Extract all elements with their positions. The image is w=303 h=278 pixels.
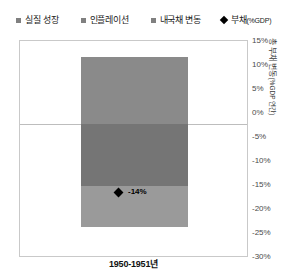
legend-item-label: 부채(%GDP) <box>231 16 271 25</box>
y-axis-title: 총 부채 변동(%GDP 연간) <box>266 38 278 258</box>
legend-item-domestic-debt-change[interactable]: 내국채 변동 <box>151 16 201 25</box>
legend-swatch-icon <box>16 18 21 23</box>
chart-legend: 실질 성장 인플레이션 내국채 변동 부채(%GDP) <box>0 12 303 28</box>
legend-item-label: 내국채 변동 <box>160 16 201 25</box>
debt-marker-value-label: -14% <box>128 188 147 196</box>
bar-segment-real-growth <box>81 57 188 124</box>
legend-swatch-icon <box>151 18 156 23</box>
debt-change-bar-chart: 실질 성장 인플레이션 내국채 변동 부채(%GDP) -14% <box>0 0 303 278</box>
stacked-bar-1950-1951[interactable] <box>81 57 188 227</box>
plot-area: -14% <box>19 40 248 257</box>
debt-marker-group[interactable]: -14% <box>115 188 147 196</box>
legend-swatch-icon <box>81 18 86 23</box>
legend-item-inflation[interactable]: 인플레이션 <box>81 16 129 25</box>
legend-item-real-growth[interactable]: 실질 성장 <box>16 16 59 25</box>
x-axis-category-label: 1950-1951년 <box>19 259 248 269</box>
diamond-marker-icon <box>114 187 124 197</box>
legend-diamond-icon <box>220 16 228 24</box>
legend-item-label: 인플레이션 <box>90 16 129 25</box>
bar-segment-inflation <box>81 124 188 186</box>
legend-item-label: 실질 성장 <box>25 16 59 25</box>
legend-item-debt-pct-gdp[interactable]: 부채(%GDP) <box>221 16 271 25</box>
